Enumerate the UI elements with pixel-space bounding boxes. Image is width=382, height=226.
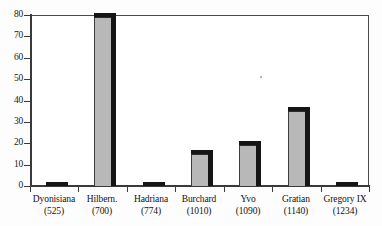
y-axis-tick-label: 10	[0, 160, 23, 170]
y-axis-line	[30, 14, 32, 187]
x-axis-category-label: Gregory IX(1234)	[321, 194, 369, 217]
y-axis-tick-label: 80	[0, 10, 23, 20]
bar	[288, 111, 305, 186]
x-axis-tick	[78, 187, 79, 192]
y-axis-tick-label: 0	[0, 181, 23, 191]
category-year: (1140)	[272, 206, 320, 218]
y-axis-tick-label-text: 30	[1, 117, 23, 127]
category-name: Hilbern.	[78, 194, 126, 206]
y-axis-tick-label-text: 70	[1, 31, 23, 41]
category-name: Burchard	[175, 194, 223, 206]
bar-group	[94, 15, 116, 186]
y-axis-tick-label-text: 80	[1, 10, 23, 20]
bar	[46, 182, 68, 186]
bar-group	[288, 15, 310, 186]
x-axis-tick	[272, 187, 273, 192]
y-axis-tick	[24, 58, 30, 59]
bar	[94, 17, 111, 186]
print-speck-artifact	[260, 76, 262, 78]
bar-side-face	[256, 141, 261, 186]
y-axis-tick-label: 40	[0, 96, 23, 106]
y-axis-tick-label: 30	[0, 117, 23, 127]
bar	[239, 145, 256, 186]
x-axis-tick	[369, 187, 370, 192]
x-axis-tick	[321, 187, 322, 192]
y-axis-tick-label-text: 0	[1, 181, 23, 191]
category-name: Gregory IX	[321, 194, 369, 206]
category-name: Dyonisiana	[30, 194, 78, 206]
bar-group	[191, 15, 213, 186]
x-axis-tick	[127, 187, 128, 192]
bar	[143, 182, 165, 186]
x-axis-category-label: Gratian(1140)	[272, 194, 320, 217]
y-axis-tick-label-text: 40	[1, 96, 23, 106]
bar-group	[46, 15, 68, 186]
bar-group	[336, 15, 358, 186]
bar-side-face	[305, 107, 310, 186]
category-year: (774)	[127, 206, 175, 218]
x-axis-category-label: Hilbern.(700)	[78, 194, 126, 217]
y-axis-tick	[24, 15, 30, 16]
y-axis-tick	[24, 36, 30, 37]
y-axis-tick	[24, 122, 30, 123]
bar-group	[143, 15, 165, 186]
y-axis-tick	[24, 101, 30, 102]
y-axis-tick-label: 20	[0, 138, 23, 148]
bar-group	[239, 15, 261, 186]
y-axis-tick-label: 60	[0, 53, 23, 63]
bar	[191, 154, 208, 186]
y-axis-tick	[24, 143, 30, 144]
y-axis-tick-label-text: 10	[1, 160, 23, 170]
y-axis-tick-label-text: 60	[1, 53, 23, 63]
x-axis-tick	[175, 187, 176, 192]
y-axis-tick-label: 70	[0, 31, 23, 41]
bar-side-face	[208, 150, 213, 186]
y-axis-tick-label-text: 20	[1, 138, 23, 148]
category-year: (525)	[30, 206, 78, 218]
x-axis-tick	[30, 187, 31, 192]
x-axis-category-label: Burchard(1010)	[175, 194, 223, 217]
x-axis-category-label: Hadriana(774)	[127, 194, 175, 217]
y-axis-tick	[24, 165, 30, 166]
y-axis-tick-label-text: 50	[1, 74, 23, 84]
category-name: Gratian	[272, 194, 320, 206]
bar-chart: 01020304050607080 Dyonisiana(525)Hilbern…	[0, 0, 382, 226]
category-year: (1234)	[321, 206, 369, 218]
y-axis-tick	[24, 79, 30, 80]
y-axis-tick-label: 50	[0, 74, 23, 84]
category-name: Yvo	[224, 194, 272, 206]
category-name: Hadriana	[127, 194, 175, 206]
x-axis-tick	[224, 187, 225, 192]
bar	[336, 182, 358, 186]
x-axis-category-label: Dyonisiana(525)	[30, 194, 78, 217]
x-axis-category-label: Yvo(1090)	[224, 194, 272, 217]
category-year: (700)	[78, 206, 126, 218]
bar-side-face	[111, 13, 116, 186]
category-year: (1090)	[224, 206, 272, 218]
category-year: (1010)	[175, 206, 223, 218]
